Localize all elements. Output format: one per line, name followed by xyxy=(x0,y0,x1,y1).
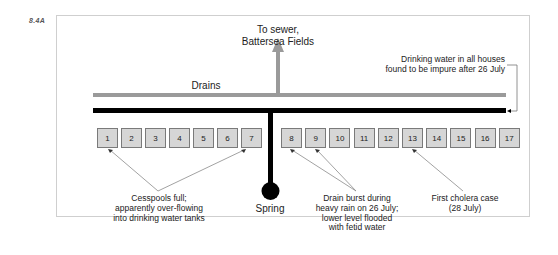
house-box: 14 xyxy=(426,128,447,148)
sewer-label: To sewer, Battersea Fields xyxy=(238,24,318,47)
house-box: 17 xyxy=(499,128,520,148)
house-box: 7 xyxy=(241,128,262,148)
cesspools-annotation: Cesspools full; apparently over-flowing … xyxy=(100,194,218,223)
water-pipe xyxy=(93,108,506,113)
cholera-annotation: First cholera case (28 July) xyxy=(420,194,510,214)
house-box: 9 xyxy=(305,128,326,148)
house-box: 8 xyxy=(281,128,302,148)
house-box: 12 xyxy=(378,128,399,148)
house-box: 4 xyxy=(169,128,190,148)
house-box: 6 xyxy=(217,128,238,148)
house-box: 13 xyxy=(402,128,423,148)
impure-note-bracket xyxy=(507,65,517,111)
house-box: 2 xyxy=(121,128,142,148)
house-box: 5 xyxy=(193,128,214,148)
spring-label: Spring xyxy=(245,203,295,215)
drain-line xyxy=(93,93,506,97)
leader-arrowheads xyxy=(108,149,417,153)
spring-icon xyxy=(262,182,280,200)
house-box: 1 xyxy=(97,128,118,148)
house-box: 15 xyxy=(450,128,471,148)
house-box: 3 xyxy=(145,128,166,148)
sewer-arrow-shaft xyxy=(276,50,280,95)
drains-label: Drains xyxy=(176,80,236,92)
drain-burst-annotation: Drain burst during heavy rain on 26 July… xyxy=(305,194,409,233)
arrow-head-icon xyxy=(507,109,511,113)
house-box: 11 xyxy=(354,128,375,148)
impure-note: Drinking water in all houses found to be… xyxy=(375,55,505,75)
house-box: 16 xyxy=(475,128,496,148)
spring-pipe xyxy=(268,108,273,186)
house-box: 10 xyxy=(329,128,350,148)
